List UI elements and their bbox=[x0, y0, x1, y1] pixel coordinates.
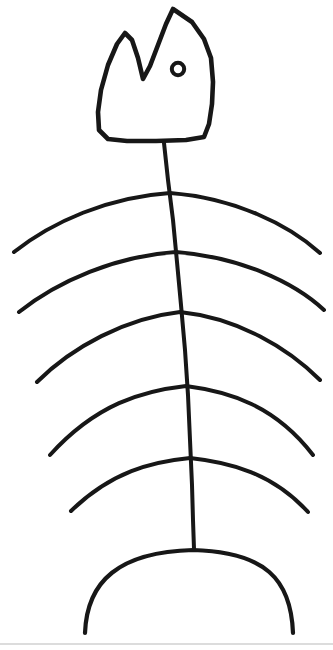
fish-bone-drawing bbox=[0, 0, 333, 650]
fish-rib-1 bbox=[14, 193, 320, 253]
fish-rib-4 bbox=[50, 386, 313, 455]
fish-rib-2 bbox=[19, 252, 324, 312]
fish-head-outline bbox=[98, 9, 213, 141]
fish-tail-arc bbox=[85, 550, 293, 633]
drawing-canvas bbox=[0, 0, 333, 650]
fish-rib-3 bbox=[37, 312, 320, 382]
fish-eye-icon bbox=[172, 63, 184, 75]
fish-spine bbox=[164, 143, 194, 549]
